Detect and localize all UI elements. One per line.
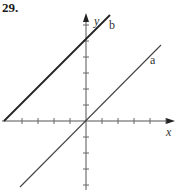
x-axis-arrow-icon [166, 118, 175, 124]
line-a-label: a [150, 53, 156, 67]
y-axis-arrow-icon [83, 13, 89, 22]
x-axis-label: x [165, 125, 172, 139]
line-a [20, 45, 161, 187]
line-b [4, 15, 110, 121]
coordinate-graph: y x b a [0, 0, 175, 195]
line-b-label: b [109, 18, 115, 32]
y-axis-label: y [93, 14, 100, 28]
x-axis [2, 118, 175, 124]
